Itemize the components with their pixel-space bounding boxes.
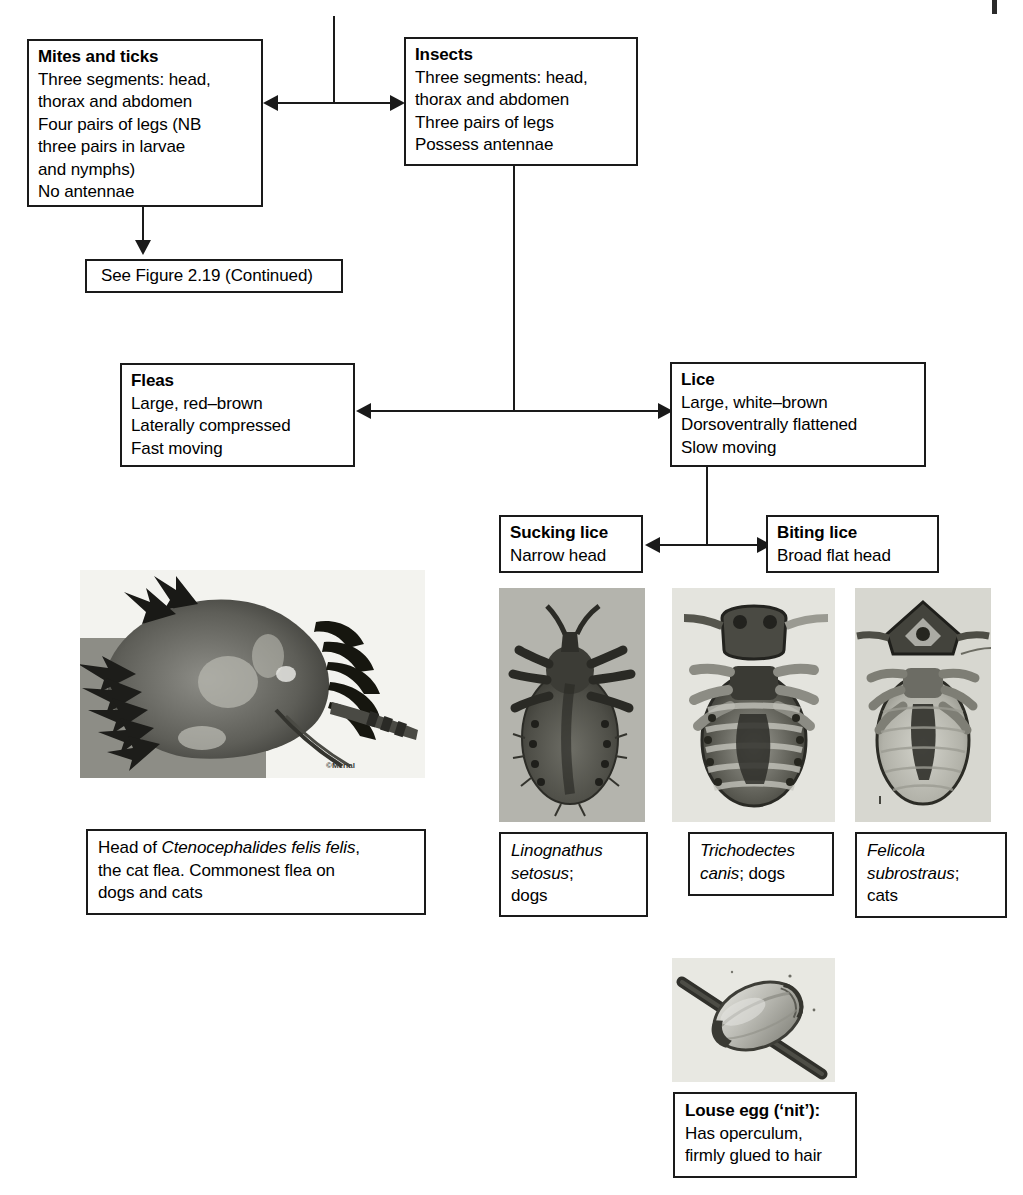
caption-louse-egg-line-2: firmly glued to hair	[685, 1145, 855, 1168]
caption-louse-egg-line-1: Has operculum,	[685, 1123, 855, 1146]
caption-felicola-line-1: Felicola	[867, 840, 1005, 863]
mites-and-ticks-line-3: Four pairs of legs (NB	[38, 114, 261, 137]
linognathus-setosus-micrograph	[499, 588, 645, 822]
caption-felicola: Felicola subrostraus; cats	[855, 832, 1007, 918]
trunk-from-previous-page-line	[333, 16, 335, 104]
caption-linognathus-line-1: Linognathus	[511, 840, 646, 863]
insects-split-arrowhead-right	[390, 95, 405, 111]
sucking-biting-split-line	[660, 544, 757, 546]
node-sucking-lice[interactable]: Sucking lice Narrow head	[499, 515, 643, 573]
sucking-lice-line-1: Narrow head	[510, 545, 641, 568]
caption-linognathus: Linognathus setosus; dogs	[499, 832, 648, 917]
mites-to-see-figure-line	[142, 207, 144, 243]
fleas-heading: Fleas	[131, 370, 353, 393]
node-biting-lice[interactable]: Biting lice Broad flat head	[766, 515, 939, 573]
fleas-line-3: Fast moving	[131, 438, 353, 461]
mites-and-ticks-line-6: No antennae	[38, 181, 261, 204]
caption-flea-head-line-1: Head of Ctenocephalides felis felis,	[98, 837, 424, 860]
caption-linognathus-line-2: setosus;	[511, 863, 646, 886]
node-fleas[interactable]: Fleas Large, red–brown Laterally compres…	[120, 363, 355, 467]
mites-split-arrowhead-left	[263, 95, 278, 111]
biting-lice-heading: Biting lice	[777, 522, 937, 545]
caption-linognathus-line-3: dogs	[511, 885, 646, 908]
fleas-split-arrowhead-left	[356, 403, 371, 419]
node-lice[interactable]: Lice Large, white–brown Dorsoventrally f…	[670, 362, 926, 467]
insects-heading: Insects	[415, 44, 636, 67]
sucking-lice-arrowhead-left	[645, 537, 660, 553]
mites-to-see-figure-arrowhead	[135, 240, 151, 255]
fleas-lice-split-line	[371, 410, 658, 412]
mites-and-ticks-heading: Mites and ticks	[38, 46, 261, 69]
fleas-line-1: Large, red–brown	[131, 393, 353, 416]
sucking-lice-heading: Sucking lice	[510, 522, 641, 545]
biting-lice-line-1: Broad flat head	[777, 545, 937, 568]
mites-and-ticks-line-2: thorax and abdomen	[38, 91, 261, 114]
lice-line-3: Slow moving	[681, 437, 924, 460]
caption-felicola-line-2: subrostraus;	[867, 863, 1005, 886]
insects-line-1: Three segments: head,	[415, 67, 636, 90]
mites-and-ticks-line-1: Three segments: head,	[38, 69, 261, 92]
insects-to-flea-lice-line	[513, 166, 515, 412]
svg-text:©Merial: ©Merial	[326, 761, 355, 770]
mites-and-ticks-line-4: three pairs in larvae	[38, 136, 261, 159]
caption-trichodectes: Trichodectes canis; dogs	[688, 832, 834, 896]
caption-louse-egg-heading: Louse egg (‘nit’):	[685, 1100, 855, 1123]
lice-line-1: Large, white–brown	[681, 392, 924, 415]
lice-heading: Lice	[681, 369, 924, 392]
flea-head-micrograph: ©Merial	[80, 570, 425, 778]
louse-egg-nit-micrograph	[672, 958, 835, 1082]
insects-line-3: Three pairs of legs	[415, 112, 636, 135]
figure-page: Mites and ticks Three segments: head, th…	[0, 0, 1023, 1195]
trichodectes-canis-micrograph	[672, 588, 835, 822]
caption-trichodectes-line-2: canis; dogs	[700, 863, 832, 886]
fleas-line-2: Laterally compressed	[131, 415, 353, 438]
caption-flea-head-line-3: dogs and cats	[98, 882, 424, 905]
caption-flea-head: Head of Ctenocephalides felis felis, the…	[86, 829, 426, 915]
caption-felicola-line-3: cats	[867, 885, 1005, 908]
felicola-subrostraus-micrograph	[855, 588, 991, 822]
lice-line-2: Dorsoventrally flattened	[681, 414, 924, 437]
node-insects[interactable]: Insects Three segments: head, thorax and…	[404, 37, 638, 166]
caption-louse-egg: Louse egg (‘nit’): Has operculum, firmly…	[673, 1092, 857, 1178]
node-mites-and-ticks[interactable]: Mites and ticks Three segments: head, th…	[27, 39, 263, 207]
mites-and-ticks-line-5: and nymphs)	[38, 159, 261, 182]
node-see-figure-reference[interactable]: See Figure 2.19 (Continued)	[85, 259, 343, 293]
page-edge-artifact	[992, 0, 997, 14]
mites-insects-split-line	[278, 102, 390, 104]
see-figure-text: See Figure 2.19 (Continued)	[101, 265, 341, 288]
caption-trichodectes-line-1: Trichodectes	[700, 840, 832, 863]
lice-to-sucking-biting-line	[706, 467, 708, 546]
insects-line-2: thorax and abdomen	[415, 89, 636, 112]
caption-flea-head-line-2: the cat flea. Commonest flea on	[98, 860, 424, 883]
insects-line-4: Possess antennae	[415, 134, 636, 157]
